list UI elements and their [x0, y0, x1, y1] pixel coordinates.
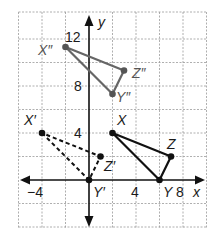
- point-y1: [86, 177, 93, 184]
- label-y: Y: [163, 184, 174, 200]
- label-z1: Z′: [103, 158, 117, 174]
- triangle-xyz: X Y Z: [109, 112, 176, 200]
- tick-x-4: 4: [131, 184, 139, 200]
- label-z2: Z″: [131, 65, 147, 81]
- y-axis-up-arrow-icon: [85, 15, 94, 26]
- tick-x-8: 8: [176, 184, 184, 200]
- label-y1: Y′: [93, 184, 106, 200]
- label-x1: X′: [23, 112, 37, 128]
- label-x: X: [116, 112, 127, 128]
- label-x2: X″: [37, 42, 53, 58]
- tick-y-8: 8: [74, 78, 82, 94]
- point-x: [109, 130, 116, 137]
- point-x1: [39, 130, 46, 137]
- tick-x-neg4: −4: [27, 184, 43, 200]
- point-z2: [121, 67, 128, 74]
- tick-y-12: 12: [65, 29, 81, 45]
- label-z: Z: [166, 136, 176, 152]
- y-axis-label: y: [97, 14, 106, 30]
- point-x2: [62, 44, 69, 51]
- y-axis-down-arrow-icon: [85, 216, 94, 227]
- triangle-x2y2z2: X″ Y″ Z″: [37, 42, 147, 105]
- label-y2: Y″: [116, 89, 131, 105]
- point-y: [156, 177, 163, 184]
- tick-y-4: 4: [74, 125, 82, 141]
- coordinate-plane: y x −4 4 8 4 8 12 X″ Y″ Z″ X′ Y′ Z′ X Y …: [0, 0, 217, 235]
- point-z: [168, 153, 175, 160]
- point-y2: [109, 91, 116, 98]
- x-axis-label: x: [192, 184, 201, 200]
- point-z1: [97, 153, 104, 160]
